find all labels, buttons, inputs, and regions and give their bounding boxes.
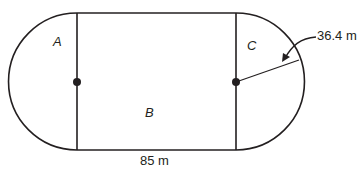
track-diagram [0,0,360,170]
radius-label: 36.4 m [317,29,357,42]
region-c-label: C [247,39,256,52]
arrow-head-icon [282,53,290,62]
left-semicircle-arc [9,13,77,150]
radius-line [236,60,299,82]
region-a-label: A [53,35,62,48]
arrow-curve [285,37,316,58]
right-center-point [232,78,240,86]
left-center-point [73,78,81,86]
region-b-label: B [145,106,154,119]
right-semicircle-arc [236,13,304,150]
length-label: 85 m [140,154,169,167]
